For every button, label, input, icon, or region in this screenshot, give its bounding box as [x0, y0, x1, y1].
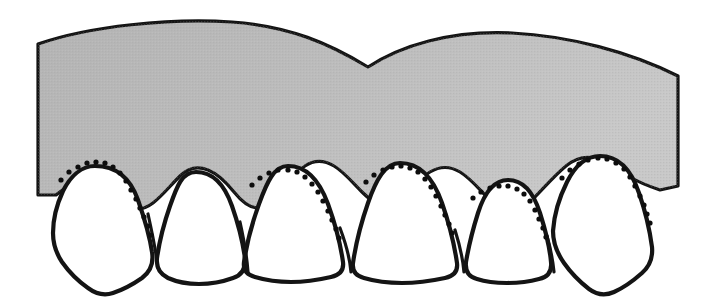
- recession-dot: [249, 182, 254, 187]
- recession-dot: [389, 164, 394, 169]
- recession-dot: [442, 212, 447, 217]
- recession-dot: [527, 198, 532, 203]
- recession-dot: [329, 217, 334, 222]
- recession-dot: [380, 167, 385, 172]
- recession-dot: [532, 207, 537, 212]
- recession-dot: [133, 196, 138, 201]
- illustration-canvas: [0, 0, 703, 306]
- recession-dot: [415, 169, 420, 174]
- recession-dot: [521, 191, 526, 196]
- recession-dot: [576, 161, 581, 166]
- recession-dot: [294, 169, 299, 174]
- recession-dot: [407, 165, 412, 170]
- recession-dot: [110, 164, 115, 169]
- recession-dot: [446, 221, 451, 226]
- recession-dot: [641, 202, 646, 207]
- recession-dot: [302, 174, 307, 179]
- recession-dot: [505, 183, 510, 188]
- recession-dot: [604, 156, 609, 161]
- recession-dot: [102, 160, 107, 165]
- recession-dot: [363, 179, 368, 184]
- recession-dot: [275, 167, 280, 172]
- recession-dot: [309, 181, 314, 186]
- recession-dot: [320, 198, 325, 203]
- recession-dot: [398, 163, 403, 168]
- recession-dot: [644, 211, 649, 216]
- recession-dot: [145, 223, 150, 228]
- recession-dot: [595, 155, 600, 160]
- recession-dot: [637, 193, 642, 198]
- recession-dot: [470, 195, 475, 200]
- recession-dot: [257, 175, 262, 180]
- recession-dot: [137, 205, 142, 210]
- recession-dot: [117, 170, 122, 175]
- recession-dot: [371, 172, 376, 177]
- recession-dot: [514, 186, 519, 191]
- recession-dot: [567, 167, 572, 172]
- recession-dot: [123, 178, 128, 183]
- recession-dot: [315, 189, 320, 194]
- recession-dot: [487, 185, 492, 190]
- recession-dot: [438, 203, 443, 208]
- recession-dot: [647, 220, 652, 225]
- recession-dot: [141, 214, 146, 219]
- recession-dot: [632, 183, 637, 188]
- recession-dot: [585, 157, 590, 162]
- recession-dot: [84, 160, 89, 165]
- recession-dot: [333, 226, 338, 231]
- recession-dot: [449, 230, 454, 235]
- recession-dot: [543, 234, 548, 239]
- recession-dot: [128, 187, 133, 192]
- recession-dot: [428, 184, 433, 189]
- recession-dot: [66, 169, 71, 174]
- recession-dot: [148, 232, 153, 237]
- recession-dot: [478, 189, 483, 194]
- recession-dot: [266, 170, 271, 175]
- recession-dot: [325, 208, 330, 213]
- dental-illustration-figure: [0, 0, 703, 306]
- recession-dot: [433, 193, 438, 198]
- recession-dot: [285, 167, 290, 172]
- recession-dot: [336, 235, 341, 240]
- recession-dot: [559, 175, 564, 180]
- recession-dot: [540, 225, 545, 230]
- recession-dot: [613, 160, 618, 165]
- recession-dot: [496, 183, 501, 188]
- recession-dot: [93, 159, 98, 164]
- recession-dot: [621, 166, 626, 171]
- recession-dot: [422, 176, 427, 181]
- recession-dot: [58, 177, 63, 182]
- recession-dot: [75, 164, 80, 169]
- recession-dot: [627, 174, 632, 179]
- recession-dot: [536, 216, 541, 221]
